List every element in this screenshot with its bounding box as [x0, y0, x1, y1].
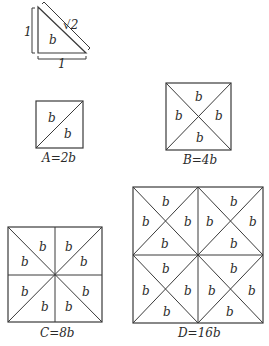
- cell-label: b: [249, 215, 257, 229]
- square-b-caption: B=4b: [182, 153, 217, 167]
- cell-label: b: [39, 240, 47, 254]
- cell-label: b: [195, 90, 203, 104]
- cell-label: b: [196, 131, 204, 145]
- cell-label: b: [230, 237, 238, 251]
- cell-label: b: [215, 109, 223, 123]
- cell-label: b: [230, 195, 238, 209]
- square-d: b b b b b b b b b b b b b b b b D=16b: [133, 187, 263, 340]
- unit-triangle: 1 1 √2 b: [24, 2, 90, 71]
- cell-label: b: [142, 215, 150, 229]
- horizontal-leg-label: 1: [58, 57, 66, 71]
- cell-label: b: [206, 215, 214, 229]
- square-b: b b b b B=4b: [166, 83, 231, 167]
- square-c: b b b b b b b b C=8b: [8, 227, 102, 340]
- cell-label: b: [21, 255, 29, 269]
- square-c-caption: C=8b: [40, 326, 75, 340]
- cell-label: b: [184, 284, 192, 298]
- cell-label: b: [64, 127, 72, 141]
- cell-label: b: [162, 262, 170, 276]
- cell-label: b: [161, 237, 169, 251]
- cell-label: b: [163, 305, 171, 319]
- cell-label: b: [65, 240, 73, 254]
- cell-label: b: [82, 285, 90, 299]
- cell-label: b: [208, 284, 216, 298]
- hypotenuse-label: √2: [63, 18, 78, 32]
- triangle-area-label: b: [49, 33, 57, 47]
- cell-label: b: [184, 215, 192, 229]
- square-a-caption: A=2b: [41, 151, 76, 165]
- squares-diagram: 1 1 √2 b b b A=2b b b b b B=4b b b b b b…: [0, 0, 269, 346]
- cell-label: b: [142, 284, 150, 298]
- square-d-caption: D=16b: [177, 326, 221, 340]
- cell-label: b: [226, 305, 234, 319]
- vertical-leg-bracket: [32, 8, 35, 53]
- cell-label: b: [41, 300, 49, 314]
- cell-label: b: [80, 255, 88, 269]
- cell-label: b: [175, 109, 183, 123]
- cell-label: b: [230, 262, 238, 276]
- cell-label: b: [162, 195, 170, 209]
- triangle-shape: [38, 7, 86, 53]
- square-a: b b A=2b: [36, 101, 83, 165]
- vertical-leg-label: 1: [24, 25, 32, 39]
- square-a-diagonal: [36, 101, 83, 148]
- cell-label: b: [21, 285, 29, 299]
- cell-label: b: [48, 111, 56, 125]
- cell-label: b: [65, 300, 73, 314]
- cell-label: b: [248, 284, 256, 298]
